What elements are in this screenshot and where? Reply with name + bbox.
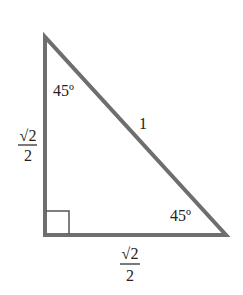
- bottom-right-angle-label: 45º: [170, 207, 191, 224]
- hypotenuse-label: 1: [139, 115, 147, 132]
- horizontal-leg-denominator: 2: [126, 267, 134, 284]
- vertical-leg-numerator: √2: [20, 127, 37, 144]
- vertical-leg-denominator: 2: [24, 147, 32, 164]
- horizontal-leg-numerator: √2: [122, 245, 139, 262]
- right-angle-marker: [46, 211, 69, 234]
- top-angle-label: 45º: [53, 82, 74, 99]
- triangle: [45, 37, 226, 235]
- triangle-diagram: 45º 45º 1 √2 2 √2 2: [0, 0, 243, 295]
